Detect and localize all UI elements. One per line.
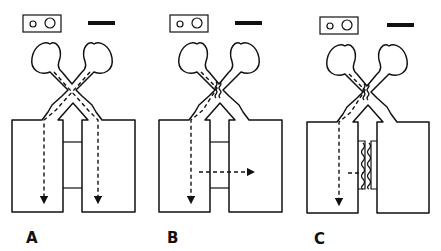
panel-label-c: C (314, 230, 325, 248)
scale-bar-icon (88, 21, 115, 25)
legend-box-icon (23, 15, 61, 32)
panel-a: A (12, 15, 135, 247)
legend-box-icon (170, 15, 208, 32)
legend-box-icon (320, 17, 358, 34)
diagram-canvas: A B (0, 0, 441, 251)
panel-b: B (159, 15, 282, 247)
membrane-seal (358, 141, 377, 189)
scale-bar-icon (235, 21, 262, 25)
panel-c: C (307, 17, 429, 248)
device-outline (12, 43, 135, 212)
device-outline (159, 43, 282, 212)
panel-label-a: A (26, 229, 38, 247)
panel-label-b: B (167, 229, 178, 247)
scale-bar-icon (387, 23, 414, 27)
